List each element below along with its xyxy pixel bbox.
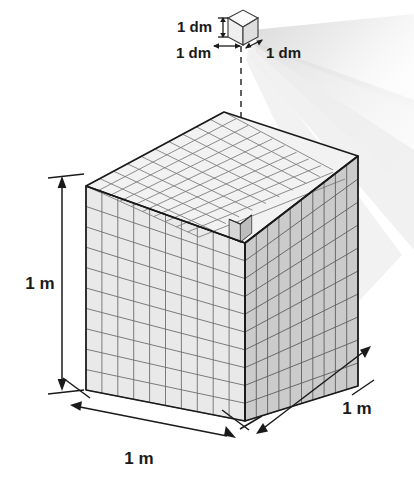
cubic-metre-solid <box>86 112 358 421</box>
unit-cube-height-label: 1 dm <box>177 18 212 35</box>
unit-cube-depth-label: 1 dm <box>266 44 301 61</box>
cubic-metre-diagram: 1 m 1 m 1 m 1 dm 1 dm 1 dm <box>0 0 414 479</box>
width-label: 1 m <box>124 449 153 468</box>
unit-cube <box>228 10 258 45</box>
unit-cube-width-label: 1 dm <box>176 44 211 61</box>
depth-label: 1 m <box>342 399 371 418</box>
height-label: 1 m <box>25 274 54 293</box>
figure-canvas: 1 m 1 m 1 m 1 dm 1 dm 1 dm <box>0 0 414 479</box>
